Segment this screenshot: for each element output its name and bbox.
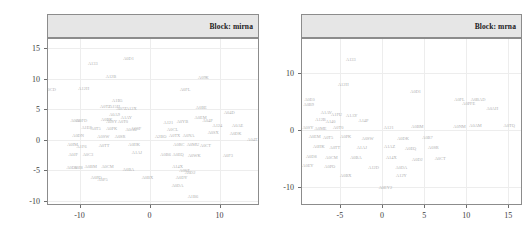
data-point-label: A0SW xyxy=(97,135,109,139)
data-point-label: A0HK xyxy=(313,145,325,149)
data-point-label: A0BM xyxy=(85,165,97,169)
data-point-label: A04T xyxy=(247,138,257,142)
data-point-label: A1AZ xyxy=(384,145,395,149)
y-axis-tick xyxy=(298,73,301,74)
x-axis-tick-label: 5 xyxy=(422,211,426,220)
y-axis-tick xyxy=(44,109,47,110)
strip-header-mirna: Block: mirna xyxy=(47,14,259,38)
data-point-label: A0CD xyxy=(47,88,56,92)
data-point-label: A0CT xyxy=(200,144,211,148)
data-point-label: A0EY2 xyxy=(379,186,392,190)
data-point-label: A0PK xyxy=(340,135,351,139)
data-point-label: A0I8 xyxy=(74,166,83,170)
data-point-label: A1FU xyxy=(331,112,342,116)
data-point-label: A09K xyxy=(198,75,209,79)
x-axis-tick-label: 10 xyxy=(462,211,470,220)
data-point-label: A0NM xyxy=(453,124,465,128)
data-point-label: A1AJ xyxy=(132,151,142,155)
data-point-label: A0ME xyxy=(315,127,327,131)
figure-root: Block: mirna A0D1A133A12BA09KA12HA0CDA0F… xyxy=(0,0,526,233)
gridline-vertical xyxy=(424,39,425,204)
y-axis-tick-label: 10 xyxy=(261,69,294,78)
data-point-label: A121 xyxy=(164,121,174,125)
data-point-label: A0DK xyxy=(230,132,242,136)
data-point-label: A0P5 xyxy=(98,177,108,181)
data-point-label: A0TT xyxy=(329,146,340,150)
facet-panel-mrna: Block: mrna A133A12HA0D1A0E0A0B9A0FLA0BA… xyxy=(263,0,526,233)
x-axis-tick-label: -10 xyxy=(74,211,85,220)
y-axis-tick xyxy=(44,79,47,80)
data-point-label: A0BA xyxy=(350,156,361,160)
y-axis-tick xyxy=(44,201,47,202)
facet-panel-mirna: Block: mirna A0D1A133A12BA09KA12HA0CDA0F… xyxy=(0,0,263,233)
x-axis-tick xyxy=(382,205,383,208)
data-point-label: A0TX xyxy=(169,134,180,138)
data-point-label: A0F3 xyxy=(223,154,233,158)
data-point-label: A0DA xyxy=(172,184,184,188)
gridline-horizontal xyxy=(48,201,258,202)
data-point-label: A0JF xyxy=(68,153,78,157)
data-point-label: A12B xyxy=(106,75,117,79)
data-point-label: A0SR xyxy=(115,135,126,139)
data-point-label: A0PFE xyxy=(462,102,475,106)
data-point-label: A133 xyxy=(88,62,98,66)
gridline-vertical xyxy=(382,39,383,204)
data-point-label: A0BA xyxy=(123,168,134,172)
plot-area-mirna: A0D1A133A12BA09KA12HA0CDA0FLA1B5A0TZA15H… xyxy=(47,38,259,205)
x-axis-tick xyxy=(466,205,467,208)
y-axis-tick-label: 0 xyxy=(261,126,294,135)
y-axis-tick xyxy=(44,48,47,49)
y-axis-tick-label: -10 xyxy=(261,182,294,191)
data-point-label: A0DY xyxy=(176,176,188,180)
x-axis-tick xyxy=(80,205,81,208)
data-point-label: A12D xyxy=(368,165,379,169)
data-point-label: A2BO xyxy=(155,135,166,139)
data-point-label: A140 xyxy=(326,120,336,124)
data-point-label: A0TQ xyxy=(504,124,515,128)
data-point-label: A1AY xyxy=(346,114,357,118)
data-point-label: A0YB xyxy=(177,120,188,124)
data-point-label: A0B9 xyxy=(303,103,314,107)
data-point-label: A0T0 xyxy=(333,126,343,130)
x-axis-tick-label: 0 xyxy=(380,211,384,220)
data-point-label: A124 xyxy=(213,124,223,128)
data-point-label: A0RC xyxy=(173,143,184,147)
gridline-vertical xyxy=(466,39,467,204)
data-point-label: A0PO xyxy=(324,165,335,169)
data-point-label: A1AJ xyxy=(357,145,367,149)
data-point-label: A0WK xyxy=(188,154,201,158)
gridline-horizontal xyxy=(302,73,521,74)
data-point-label: A0CM xyxy=(101,165,113,169)
gridline-horizontal xyxy=(48,79,258,80)
strip-label-text: Block: mirna xyxy=(210,22,254,31)
y-axis-tick-label: -5 xyxy=(7,166,40,175)
gridline-horizontal xyxy=(48,48,258,49)
strip-label-text: Block: mrna xyxy=(475,22,516,31)
data-point-label: A0D2 xyxy=(412,157,423,161)
data-point-label: A0DA xyxy=(396,165,408,169)
data-point-label: A0BX xyxy=(340,173,351,177)
data-point-label: A12B xyxy=(315,118,326,122)
data-point-label: A12H xyxy=(78,87,89,91)
x-axis-tick-label: 10 xyxy=(216,211,224,220)
x-axis-tick xyxy=(508,205,509,208)
data-point-label: A0AM xyxy=(469,124,481,128)
data-point-label: A0EY xyxy=(302,164,313,168)
data-point-label: A0SF xyxy=(131,127,141,131)
x-axis-tick xyxy=(220,205,221,208)
gridline-horizontal xyxy=(48,170,258,171)
data-point-label: A0AE xyxy=(232,124,243,128)
data-point-label: A0AH xyxy=(487,107,499,111)
data-point-label: A0D1 xyxy=(410,90,421,94)
data-point-label: A0EQ xyxy=(405,147,416,151)
gridline-horizontal xyxy=(302,187,521,188)
data-point-label: A0D1 xyxy=(123,56,134,60)
x-axis-tick-label: 15 xyxy=(504,211,512,220)
data-point-label: A0SX xyxy=(208,130,219,134)
data-point-label: A0FD xyxy=(76,119,87,123)
x-axis-tick xyxy=(150,205,151,208)
data-point-label: A1B5 xyxy=(112,99,123,103)
x-axis-tick xyxy=(340,205,341,208)
y-axis-tick xyxy=(44,170,47,171)
strip-header-mrna: Block: mrna xyxy=(301,14,522,38)
